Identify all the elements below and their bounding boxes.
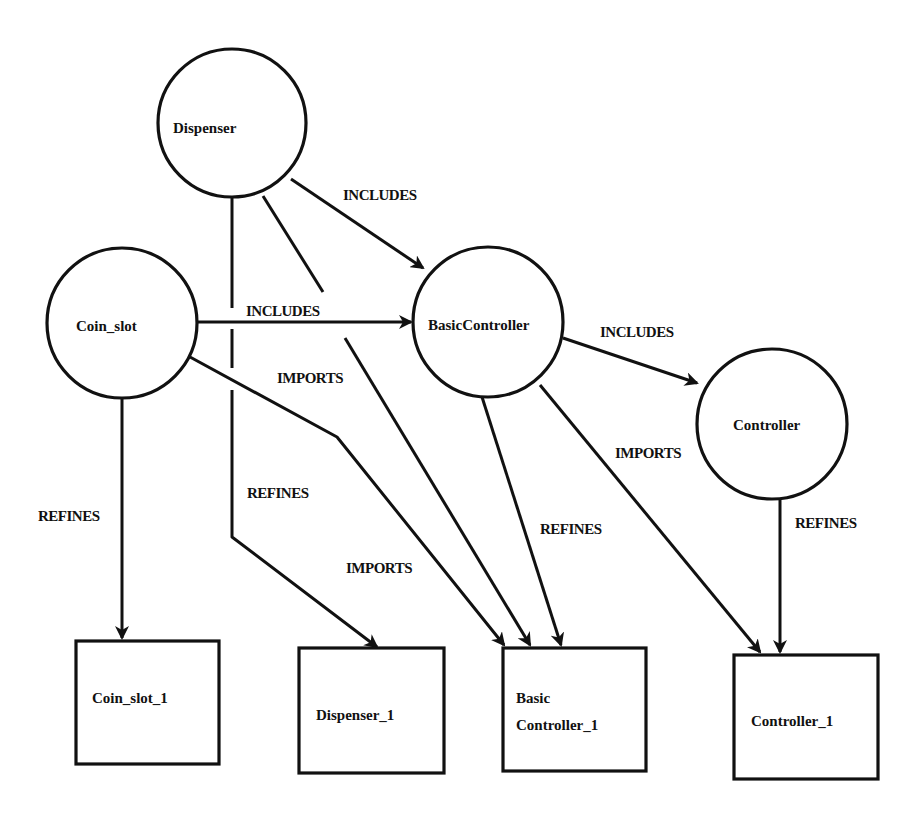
- edge-label-includes: INCLUDES: [343, 187, 417, 203]
- edge-label-imports: IMPORTS: [346, 560, 412, 576]
- node-label: Dispenser_1: [316, 707, 394, 723]
- edge-label-includes: INCLUDES: [600, 324, 674, 340]
- node-coin-slot-1[interactable]: Coin_slot_1: [76, 641, 219, 764]
- box-shape: [503, 648, 646, 771]
- edge-coinslot-imports-basiccontroller1: [190, 357, 504, 645]
- node-label: Coin_slot_1: [92, 690, 168, 706]
- edge-dispenser-imports-basiccontroller1-seg1: [263, 196, 323, 292]
- module-dependency-diagram: INCLUDES INCLUDES INCLUDES IMPORTS IMPOR…: [0, 0, 917, 815]
- node-dispenser[interactable]: Dispenser: [158, 49, 306, 197]
- edge-label-refines: REFINES: [247, 485, 309, 501]
- edge-label-refines: REFINES: [795, 515, 857, 531]
- edge-dispenser-refines-dispenser1-seg3: [232, 390, 377, 647]
- edge-label-imports: IMPORTS: [277, 370, 343, 386]
- node-label: Coin_slot: [76, 318, 137, 334]
- node-label: BasicController: [428, 317, 530, 333]
- node-basic-controller-1[interactable]: Basic Controller_1: [503, 648, 646, 771]
- edge-label-includes: INCLUDES: [246, 303, 320, 319]
- edge-label-refines: REFINES: [38, 508, 100, 524]
- edge-label-refines: REFINES: [540, 521, 602, 537]
- node-coin-slot[interactable]: Coin_slot: [47, 248, 197, 398]
- node-controller[interactable]: Controller: [697, 349, 847, 499]
- node-label: Controller: [733, 417, 801, 433]
- node-label-line1: Basic: [516, 690, 551, 706]
- edge-basiccontroller-includes-controller: [563, 338, 697, 383]
- node-controller-1[interactable]: Controller_1: [734, 655, 878, 779]
- node-basic-controller[interactable]: BasicController: [413, 247, 563, 397]
- edge-label-imports: IMPORTS: [615, 445, 681, 461]
- node-dispenser-1[interactable]: Dispenser_1: [299, 648, 444, 773]
- node-label-line2: Controller_1: [516, 717, 598, 733]
- node-label: Controller_1: [751, 713, 833, 729]
- node-label: Dispenser: [173, 120, 237, 136]
